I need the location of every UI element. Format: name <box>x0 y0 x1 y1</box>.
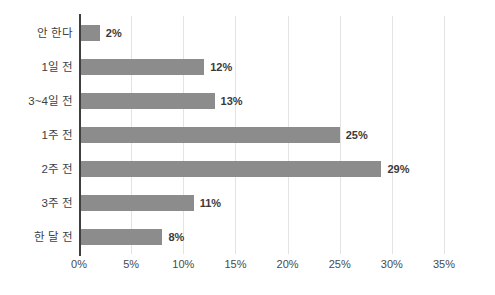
category-label: 1일 전 <box>1 59 73 75</box>
x-axis-tick-labels: 0%5%10%15%20%25%30%35% <box>0 258 495 278</box>
bar-row: 2% <box>79 16 444 50</box>
x-tick-label: 15% <box>224 258 246 270</box>
bar-value-label: 25% <box>346 127 368 143</box>
category-label: 3주 전 <box>1 195 73 211</box>
x-tick-label: 35% <box>433 258 455 270</box>
bar-row: 29% <box>79 152 444 186</box>
bar <box>79 161 381 177</box>
category-label: 2주 전 <box>1 161 73 177</box>
category-axis-labels: 안 한다1일 전3~4일 전1주 전2주 전3주 전한 달 전 <box>0 16 73 254</box>
bar-value-label: 13% <box>221 93 243 109</box>
gridline <box>444 16 445 254</box>
x-tick-label: 0% <box>71 258 87 270</box>
x-tick-label: 10% <box>172 258 194 270</box>
bar-row: 11% <box>79 186 444 220</box>
plot-area: 2%12%13%25%29%11%8% <box>79 16 444 254</box>
bar-row: 13% <box>79 84 444 118</box>
bar <box>79 195 194 211</box>
bar-row: 12% <box>79 50 444 84</box>
x-tick-label: 25% <box>329 258 351 270</box>
bar-row: 8% <box>79 220 444 254</box>
bar <box>79 127 340 143</box>
bar-value-label: 8% <box>168 229 184 245</box>
category-label: 3~4일 전 <box>1 93 73 109</box>
category-label: 1주 전 <box>1 127 73 143</box>
category-label: 안 한다 <box>1 25 73 41</box>
category-axis-line <box>79 14 81 256</box>
x-tick-label: 5% <box>123 258 139 270</box>
bar <box>79 25 100 41</box>
x-tick-label: 20% <box>277 258 299 270</box>
bar-value-label: 11% <box>200 195 221 211</box>
category-label: 한 달 전 <box>1 229 73 245</box>
bar-chart: 안 한다1일 전3~4일 전1주 전2주 전3주 전한 달 전 2%12%13%… <box>0 0 495 295</box>
bar-row: 25% <box>79 118 444 152</box>
bar <box>79 229 162 245</box>
bar-value-label: 12% <box>210 59 232 75</box>
bar <box>79 59 204 75</box>
bar-value-label: 29% <box>387 161 409 177</box>
bar <box>79 93 215 109</box>
x-tick-label: 30% <box>381 258 403 270</box>
bar-value-label: 2% <box>106 25 122 41</box>
